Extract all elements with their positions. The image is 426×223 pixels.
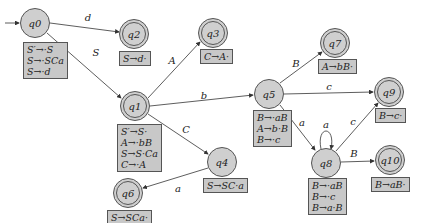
item-set-q8: B→·aB B→·c B→a·B [308,178,347,215]
item: S→SCa· [111,212,148,223]
edge-q0-q2 [50,23,119,32]
state-label: q6 [122,188,135,199]
item: S→·d [27,66,64,77]
item: S→S·Ca [121,148,158,159]
edge-q8-q10 [341,161,374,162]
item-set-q5: B→·aB A→b·B B→·c [253,110,292,147]
item-set-q7: A→bB· [318,59,357,74]
item: S′→·S [27,44,64,55]
edge-q5-q7 [280,52,322,83]
item: C→A· [204,51,229,62]
state-q8: q8 [311,148,341,178]
item: B→·c [257,134,288,145]
edge-label-q1-q3: A [168,55,175,66]
state-label: q9 [383,87,396,98]
item-set-q6: S→SCa· [107,210,152,223]
item: C→·A [121,159,158,170]
edge-label-q0-q2: d [85,12,91,23]
state-q3: q3 [198,18,228,48]
item: B→·aB [257,112,288,123]
item: S→d· [123,53,147,64]
item-set-q1: S′→S· A→·bB S→S·Ca C→·A [117,124,162,172]
item: A→·bB [121,137,158,148]
item: B→a·B [312,202,343,213]
item: S→·SCa [27,55,64,66]
edge-label-q4-q6: a [175,183,181,194]
edge-label-q8-q10: B [350,148,357,159]
item-set-q9: B→c· [375,108,406,123]
edge-label-q5-q7: B [292,58,299,69]
state-q6: q6 [113,178,143,208]
edge-q5-q9 [284,92,373,94]
state-q2: q2 [119,19,149,49]
item-set-q0: S′→·S S→·SCa S→·d [23,42,68,79]
state-label: q7 [329,38,342,49]
state-label: q3 [207,28,220,39]
item: B→·c [312,191,343,202]
state-q0: q0 [20,8,50,38]
item-set-q3: C→A· [200,49,233,64]
edge-label-q5-q9: c [326,81,332,92]
state-q4: q4 [207,147,237,177]
edge-q1-q3 [148,42,200,98]
state-label: q10 [380,155,399,166]
edge-label-q0-q1: S [93,47,100,58]
item: B→c· [379,110,402,121]
state-q1: q1 [120,91,150,121]
item: B→·aB [312,180,343,191]
item: A→b·B [257,123,288,134]
edge-label-q1-q5: b [201,90,207,101]
state-q5: q5 [254,79,284,109]
state-label: q8 [320,158,333,169]
item: A→bB· [322,61,353,72]
state-label: q1 [129,101,142,112]
item-set-q10: B→aB· [371,177,410,192]
item-set-q4: S→SC·a [203,178,248,193]
item-set-q2: S→d· [119,51,151,66]
edge-q8-q9 [336,103,378,151]
state-q9: q9 [374,77,404,107]
edge-label-q8-q8: a [323,119,329,130]
edge-label-q1-q4: C [182,124,190,135]
item: S→SC·a [207,180,244,191]
state-q10: q10 [375,145,405,175]
state-label: q0 [29,18,42,29]
state-label: q5 [263,89,276,100]
item: S′→S· [121,126,158,137]
edge-q8-q8 [320,131,332,149]
edge-label-q8-q9: c [350,116,356,127]
edge-label-q5-q8: a [299,117,305,128]
state-label: q4 [216,157,229,168]
state-q7: q7 [320,28,350,58]
item: B→aB· [375,179,406,190]
state-label: q2 [128,29,141,40]
